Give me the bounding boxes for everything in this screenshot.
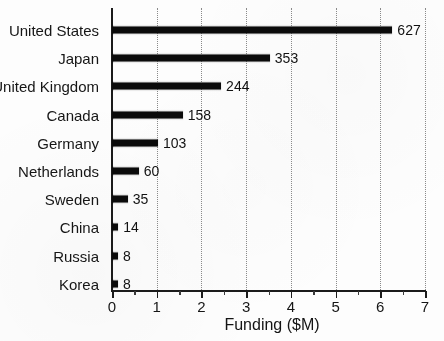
x-tick-label-1: 1 [153, 298, 161, 315]
bar [112, 139, 158, 146]
x-tick-6 [380, 291, 382, 298]
gridline-5 [336, 8, 337, 290]
x-tick-minor-4 [313, 291, 315, 295]
category-label: United States [9, 21, 99, 38]
bar-value-label: 244 [226, 78, 249, 94]
bar [112, 83, 221, 90]
bar [112, 252, 118, 259]
bar-value-label: 103 [163, 135, 186, 151]
bar [112, 167, 139, 174]
x-tick-minor-1 [179, 291, 181, 295]
bar-value-label: 8 [123, 276, 131, 292]
bar [112, 196, 128, 203]
bar-value-label: 353 [275, 50, 298, 66]
category-label: Japan [58, 50, 99, 67]
x-axis-title-text: Funding ($M) [124, 316, 319, 333]
x-tick-2 [201, 291, 203, 298]
x-tick-label-4: 4 [287, 298, 295, 315]
x-tick-0 [112, 291, 114, 298]
bar-value-label: 158 [188, 107, 211, 123]
bar-value-label: 60 [144, 163, 160, 179]
x-tick-label-0: 0 [108, 298, 116, 315]
bar [112, 111, 183, 118]
gridline-1 [157, 8, 158, 290]
gridline-6 [380, 8, 381, 290]
x-tick-3 [246, 291, 248, 298]
bar [112, 26, 392, 33]
x-tick-label-3: 3 [242, 298, 250, 315]
x-tick-label-6: 6 [376, 298, 384, 315]
x-tick-minor-2 [224, 291, 226, 295]
x-tick-4 [291, 291, 293, 298]
gridline-3 [246, 8, 247, 290]
category-label: Canada [46, 106, 99, 123]
bar-value-label: 8 [123, 248, 131, 264]
x-tick-1 [157, 291, 159, 298]
gridlines [112, 8, 425, 290]
x-tick-label-7: 7 [421, 298, 429, 315]
category-label: Germany [37, 134, 99, 151]
x-tick-minor-0 [134, 291, 136, 295]
bar [112, 55, 270, 62]
category-label: Netherlands [18, 162, 99, 179]
bar [112, 224, 118, 231]
y-axis-line [111, 8, 113, 291]
bar-chart: 01234567 627United States353Japan244Unit… [0, 0, 444, 341]
category-label: China [60, 219, 99, 236]
category-label: Sweden [45, 191, 99, 208]
x-tick-5 [336, 291, 338, 298]
x-tick-minor-3 [269, 291, 271, 295]
x-tick-minor-6 [403, 291, 405, 295]
bar-value-label: 14 [123, 219, 139, 235]
bar-value-label: 627 [397, 22, 420, 38]
x-tick-label-5: 5 [331, 298, 339, 315]
x-tick-minor-5 [358, 291, 360, 295]
category-label: Korea [59, 275, 99, 292]
x-tick-7 [425, 291, 427, 298]
x-tick-label-2: 2 [197, 298, 205, 315]
gridline-2 [201, 8, 202, 290]
x-axis-title: Funding ($M) [0, 316, 444, 334]
category-label: Russia [53, 247, 99, 264]
gridline-7 [425, 8, 426, 290]
bar [112, 280, 118, 287]
category-label: United Kingdom [0, 78, 99, 95]
bar-value-label: 35 [133, 191, 149, 207]
